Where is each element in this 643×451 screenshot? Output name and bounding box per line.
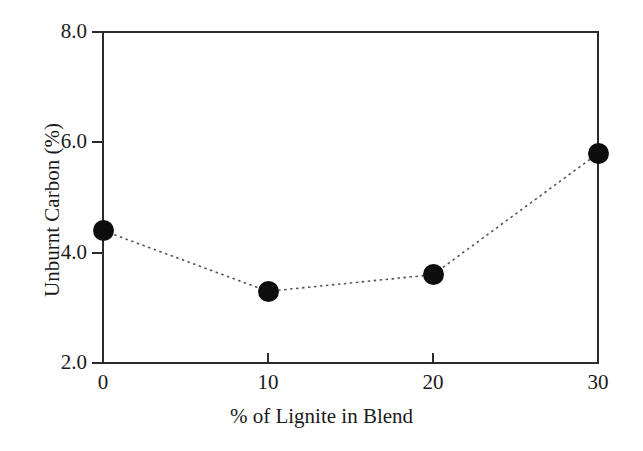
series-polyline <box>103 153 598 291</box>
data-series-line <box>0 0 643 451</box>
chart-figure: 8.0 6.0 4.0 2.0 0 10 20 30 % of Lignite … <box>0 0 643 451</box>
